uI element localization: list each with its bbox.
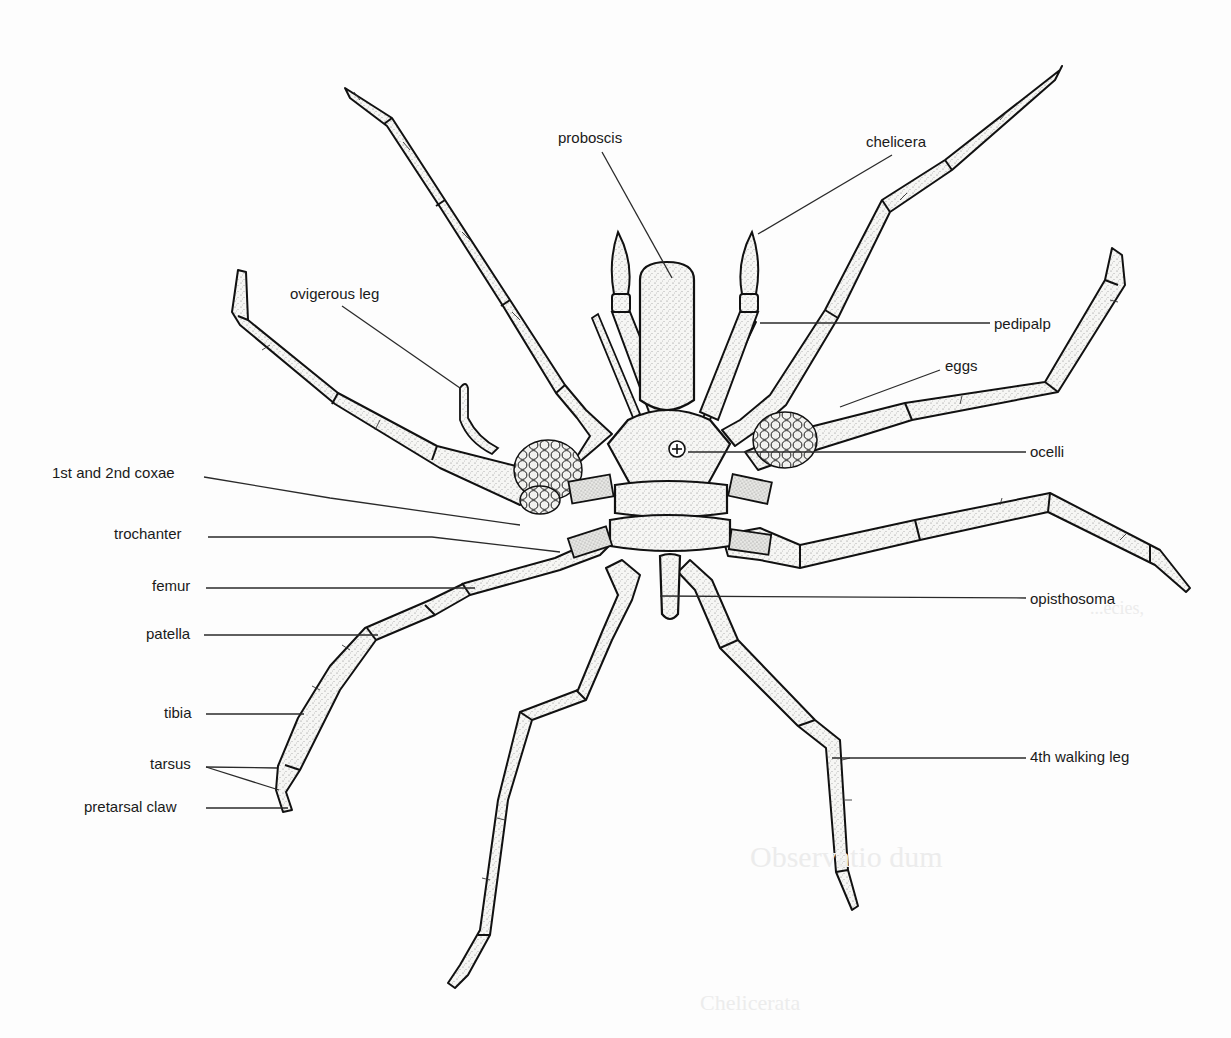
coxa-right-1 (728, 474, 772, 504)
sea-spider-diagram: proboscis chelicera ovigerous leg pedipa… (0, 0, 1231, 1038)
label-patella: patella (146, 626, 190, 641)
left-leg-3 (276, 538, 610, 812)
leader-line-tarsus-0 (206, 767, 277, 768)
egg-mass-right (753, 412, 817, 468)
label-tibia: tibia (164, 705, 192, 720)
label-trochanter: trochanter (114, 526, 182, 541)
label-proboscis: proboscis (558, 130, 622, 145)
left-leg-2 (232, 270, 540, 505)
chelicera-left-base (612, 294, 630, 312)
trunk-segment-1 (615, 481, 727, 517)
chelicera-left-claw (612, 232, 630, 294)
label-eggs: eggs (945, 358, 978, 373)
leader-line-tarsus-1 (206, 767, 279, 790)
proboscis-shape (640, 262, 694, 410)
opisthosoma-shape (660, 554, 680, 619)
trunk-segment-2 (610, 515, 730, 551)
leader-line-trochanter (208, 537, 560, 552)
label-ocelli: ocelli (1030, 444, 1064, 459)
ocelli-tubercle (669, 441, 685, 457)
ovigerous-leg-shape (460, 384, 498, 454)
chelicera-right-claw (740, 232, 758, 294)
right-leg-3 (722, 493, 1190, 592)
left-leg-4 (448, 560, 640, 988)
leader-line-1st-and-2nd-coxae (204, 477, 520, 525)
label-pretarsal-claw: pretarsal claw (84, 799, 177, 814)
chelicera-right-stalk (700, 312, 758, 420)
egg-mass-left-lower (520, 486, 560, 514)
label-ovigerous-leg: ovigerous leg (290, 286, 379, 301)
label-femur: femur (152, 578, 190, 593)
sea-spider-illustration (0, 0, 1231, 1038)
coxa-right-2 (729, 529, 771, 554)
leader-line-ovigerous-leg (342, 306, 460, 388)
label-4th-walking-leg: 4th walking leg (1030, 749, 1129, 764)
right-leg-4 (678, 560, 858, 910)
chelicera-right-base (740, 294, 758, 312)
label-chelicera: chelicera (866, 134, 926, 149)
label-pedipalp: pedipalp (994, 316, 1051, 331)
coxa-left-2 (568, 526, 612, 557)
label-opisthosoma: opisthosoma (1030, 591, 1115, 606)
label-coxae: 1st and 2nd coxae (52, 465, 175, 480)
label-tarsus: tarsus (150, 756, 191, 771)
